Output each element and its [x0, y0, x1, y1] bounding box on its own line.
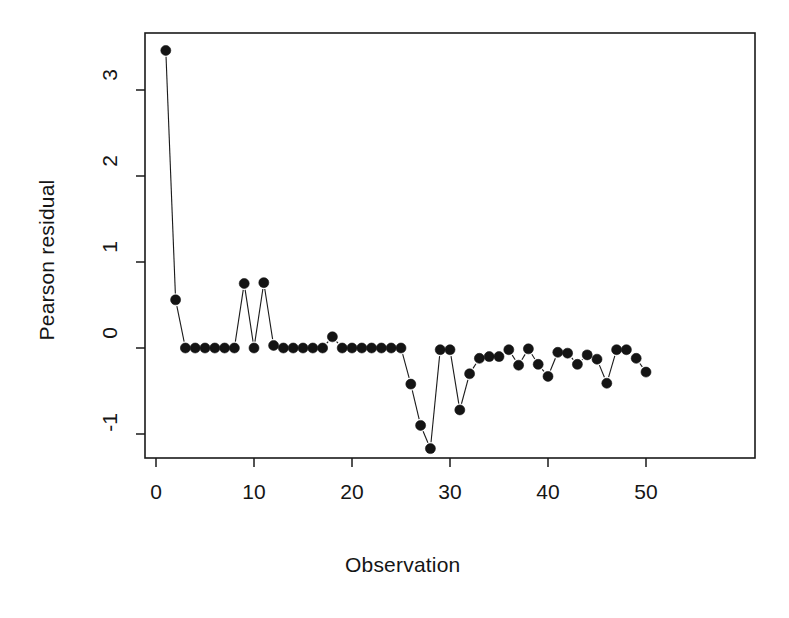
data-point-marker — [318, 343, 328, 353]
x-tick-label: 40 — [523, 480, 573, 504]
data-point-marker — [514, 360, 524, 370]
data-point-marker — [406, 379, 416, 389]
data-point-marker — [582, 350, 592, 360]
data-point-marker — [357, 343, 367, 353]
pearson-residual-plot: Pearson residual Observation 01020304050… — [0, 0, 789, 618]
data-point-marker — [249, 343, 259, 353]
data-point-marker — [425, 444, 435, 454]
data-point-marker — [435, 345, 445, 355]
y-axis-ticks — [136, 90, 145, 434]
data-point-marker — [474, 353, 484, 363]
data-point-marker — [563, 348, 573, 358]
data-point-marker — [484, 352, 494, 362]
data-point-marker — [621, 345, 631, 355]
data-point-marker — [259, 278, 269, 288]
x-tick-label: 10 — [229, 480, 279, 504]
data-point-marker — [278, 343, 288, 353]
y-tick-label: 3 — [98, 69, 122, 109]
data-point-marker — [631, 353, 641, 363]
data-point-marker — [533, 359, 543, 369]
data-point-marker — [523, 344, 533, 354]
data-point-marker — [298, 343, 308, 353]
data-point-marker — [543, 371, 553, 381]
y-tick-label: -1 — [98, 413, 122, 453]
x-tick-label: 0 — [131, 480, 181, 504]
data-point-marker — [553, 347, 563, 357]
data-point-marker — [416, 420, 426, 430]
data-point-marker — [269, 340, 279, 350]
data-point-marker — [367, 343, 377, 353]
y-tick-label: 2 — [98, 155, 122, 195]
y-tick-label: 0 — [98, 327, 122, 367]
data-point-marker — [572, 359, 582, 369]
data-point-marker — [288, 343, 298, 353]
plot-frame — [145, 33, 755, 458]
data-point-marker — [494, 352, 504, 362]
y-tick-label: 1 — [98, 241, 122, 281]
x-axis-ticks — [156, 458, 646, 467]
data-points — [161, 45, 651, 453]
data-point-marker — [376, 343, 386, 353]
data-point-marker — [504, 345, 514, 355]
data-point-marker — [210, 343, 220, 353]
data-point-marker — [220, 343, 230, 353]
data-point-marker — [200, 343, 210, 353]
data-point-marker — [592, 354, 602, 364]
data-point-marker — [180, 343, 190, 353]
data-point-marker — [229, 343, 239, 353]
data-point-marker — [347, 343, 357, 353]
data-point-marker — [602, 378, 612, 388]
data-point-marker — [327, 332, 337, 342]
data-point-marker — [386, 343, 396, 353]
data-point-marker — [641, 367, 651, 377]
x-tick-label: 20 — [327, 480, 377, 504]
data-point-marker — [337, 343, 347, 353]
data-point-marker — [612, 345, 622, 355]
x-tick-label: 30 — [425, 480, 475, 504]
data-point-marker — [171, 295, 181, 305]
data-point-marker — [161, 45, 171, 55]
data-point-marker — [239, 279, 249, 289]
data-point-marker — [308, 343, 318, 353]
data-point-marker — [396, 343, 406, 353]
data-point-marker — [455, 405, 465, 415]
x-tick-label: 50 — [621, 480, 671, 504]
data-point-marker — [190, 343, 200, 353]
data-point-marker — [465, 369, 475, 379]
data-point-marker — [445, 345, 455, 355]
data-line — [166, 57, 642, 443]
